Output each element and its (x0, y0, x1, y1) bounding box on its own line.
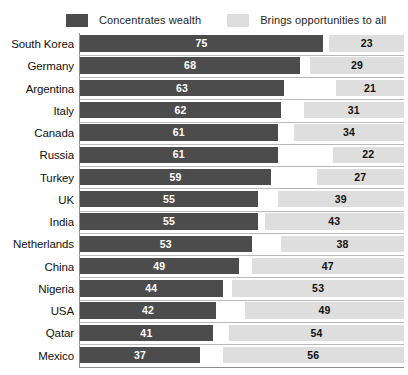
row-separator (79, 188, 404, 189)
category-label: South Korea (0, 33, 74, 55)
bar-value-label: 34 (343, 127, 355, 138)
row-separator (79, 99, 404, 100)
legend-item-brings-opportunities: Brings opportunities to all (227, 14, 386, 27)
bar-concentrates-wealth: 68 (80, 57, 300, 73)
row-bars: 4154 (80, 325, 404, 341)
row-bars: 7523 (80, 35, 404, 51)
category-label: USA (0, 300, 74, 322)
bar-concentrates-wealth: 37 (80, 347, 200, 363)
bar-value-label: 39 (335, 194, 347, 205)
bar-brings-opportunities: 53 (232, 280, 404, 296)
chart-row: South Korea7523 (0, 33, 408, 55)
x-axis-baseline (79, 367, 404, 368)
row-bars: 6122 (80, 147, 404, 163)
bar-concentrates-wealth: 44 (80, 280, 223, 296)
bar-brings-opportunities: 27 (317, 169, 404, 185)
bar-brings-opportunities: 49 (245, 302, 404, 318)
bar-value-label: 61 (173, 149, 185, 160)
row-separator (79, 344, 404, 345)
bar-value-label: 38 (336, 239, 348, 250)
row-separator (79, 300, 404, 301)
bar-value-label: 53 (160, 239, 172, 250)
row-bars: 6231 (80, 102, 404, 118)
category-label: Canada (0, 122, 74, 144)
plot-area: South Korea7523Germany6829Argentina6321I… (0, 33, 408, 367)
chart-row: Russia6122 (0, 144, 408, 166)
category-label: India (0, 211, 74, 233)
bar-value-label: 49 (153, 261, 165, 272)
row-bars: 5543 (80, 213, 404, 229)
bar-brings-opportunities: 34 (294, 124, 404, 140)
bar-value-label: 54 (310, 328, 322, 339)
legend-label: Concentrates wealth (99, 14, 201, 26)
bar-concentrates-wealth: 53 (80, 236, 252, 252)
bar-concentrates-wealth: 62 (80, 102, 281, 118)
category-label: China (0, 256, 74, 278)
bar-concentrates-wealth: 55 (80, 191, 258, 207)
legend-label: Brings opportunities to all (260, 14, 386, 26)
bar-value-label: 55 (163, 194, 175, 205)
category-label: Russia (0, 144, 74, 166)
row-separator (79, 144, 404, 145)
category-label: Qatar (0, 322, 74, 344)
chart-row: India5543 (0, 211, 408, 233)
row-separator (79, 166, 404, 167)
chart-row: Germany6829 (0, 55, 408, 77)
bar-value-label: 49 (319, 305, 331, 316)
bar-brings-opportunities: 54 (229, 325, 404, 341)
row-bars: 5927 (80, 169, 404, 185)
row-separator (79, 255, 404, 256)
bar-chart: Concentrates wealth Brings opportunities… (0, 0, 408, 375)
bar-value-label: 23 (361, 38, 373, 49)
row-bars: 3756 (80, 347, 404, 363)
category-label: Turkey (0, 167, 74, 189)
bar-value-label: 42 (142, 305, 154, 316)
legend-swatch-icon (227, 14, 249, 27)
row-bars: 6321 (80, 80, 404, 96)
chart-row: Turkey5927 (0, 167, 408, 189)
bar-concentrates-wealth: 61 (80, 124, 278, 140)
row-separator (79, 322, 404, 323)
row-separator (79, 77, 404, 78)
category-label: Mexico (0, 345, 74, 367)
chart-row: Italy6231 (0, 100, 408, 122)
bar-value-label: 61 (173, 127, 185, 138)
bar-value-label: 56 (307, 350, 319, 361)
bar-value-label: 75 (195, 38, 207, 49)
bar-value-label: 31 (348, 105, 360, 116)
row-bars: 4453 (80, 280, 404, 296)
bar-concentrates-wealth: 59 (80, 169, 271, 185)
chart-row: Nigeria4453 (0, 278, 408, 300)
bar-value-label: 37 (134, 350, 146, 361)
bar-brings-opportunities: 38 (281, 236, 404, 252)
row-separator (79, 55, 404, 56)
bar-concentrates-wealth: 75 (80, 35, 323, 51)
row-separator (79, 211, 404, 212)
chart-row: Argentina6321 (0, 78, 408, 100)
category-label: UK (0, 189, 74, 211)
bar-value-label: 29 (351, 60, 363, 71)
category-label: Germany (0, 55, 74, 77)
bar-brings-opportunities: 29 (310, 57, 404, 73)
bar-brings-opportunities: 31 (304, 102, 404, 118)
bar-concentrates-wealth: 49 (80, 258, 239, 274)
row-bars: 6134 (80, 124, 404, 140)
bar-value-label: 41 (140, 328, 152, 339)
bar-value-label: 47 (322, 261, 334, 272)
bar-value-label: 53 (312, 283, 324, 294)
bar-value-label: 62 (174, 105, 186, 116)
legend-swatch-icon (66, 14, 88, 27)
bar-value-label: 21 (364, 83, 376, 94)
bar-concentrates-wealth: 42 (80, 302, 216, 318)
row-separator (79, 122, 404, 123)
bar-brings-opportunities: 21 (336, 80, 404, 96)
bar-value-label: 22 (362, 149, 374, 160)
chart-row: UK5539 (0, 189, 408, 211)
bar-brings-opportunities: 43 (265, 213, 404, 229)
chart-row: China4947 (0, 256, 408, 278)
category-label: Nigeria (0, 278, 74, 300)
row-bars: 6829 (80, 57, 404, 73)
bar-value-label: 55 (163, 216, 175, 227)
bar-brings-opportunities: 56 (223, 347, 404, 363)
row-bars: 4249 (80, 302, 404, 318)
